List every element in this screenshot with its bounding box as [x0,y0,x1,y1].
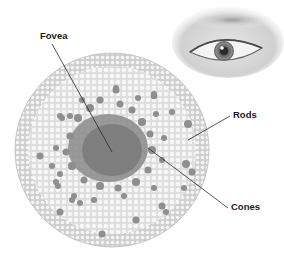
rods-label: Rods [233,109,257,120]
retina-disc [15,53,209,247]
eye-illustration-icon [172,6,284,78]
retina-diagram: Fovea Rods Cones [0,0,284,265]
cones-label: Cones [231,201,260,212]
fovea-label: Fovea [40,30,67,41]
